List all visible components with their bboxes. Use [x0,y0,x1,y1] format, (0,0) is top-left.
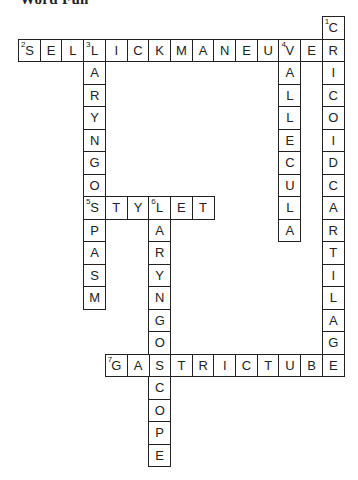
crossword-cell[interactable]: T [170,354,193,378]
cell-letter: T [112,200,120,215]
crossword-cell[interactable]: A [148,219,171,243]
cell-letter: A [90,65,99,80]
crossword-cell[interactable]: O [148,331,171,355]
crossword-cell[interactable]: A [83,241,106,265]
crossword-cell[interactable]: M [83,286,106,310]
crossword-cell[interactable]: R [322,219,345,243]
crossword-cell[interactable]: O [83,174,106,198]
crossword-cell[interactable]: O [322,106,345,130]
crossword-cell[interactable]: E [235,39,258,63]
clue-number: 3 [86,40,90,49]
cell-letter: T [264,358,272,373]
crossword-cell[interactable]: E [40,39,63,63]
crossword-cell[interactable]: A [83,61,106,85]
crossword-cell[interactable]: A [192,39,215,63]
crossword-cell[interactable]: C [127,39,150,63]
crossword-cell[interactable]: L [61,39,84,63]
crossword-cell[interactable]: C [235,354,258,378]
cell-letter: C [329,20,338,35]
crossword-cell[interactable]: I [213,354,236,378]
crossword-cell[interactable]: L [278,84,301,108]
crossword-cell[interactable]: R [322,39,345,63]
crossword-cell[interactable]: R [148,241,171,265]
crossword-cell[interactable]: G [148,309,171,333]
cell-letter: B [307,358,316,373]
crossword-cell[interactable]: T [257,354,280,378]
crossword-cell[interactable]: U [278,354,301,378]
crossword-cell[interactable]: Y [148,264,171,288]
cell-letter: E [155,448,164,463]
crossword-cell[interactable]: K [148,39,171,63]
cell-letter: I [331,65,335,80]
cell-letter: P [90,223,99,238]
cell-letter: G [111,358,121,373]
clue-number: 4 [281,40,285,49]
cell-letter: U [263,43,272,58]
crossword-cell[interactable]: I [322,61,345,85]
crossword-cell[interactable]: T [105,196,128,220]
crossword-cell[interactable]: U [257,39,280,63]
crossword-cell[interactable]: R [83,84,106,108]
clue-number: 6 [151,197,155,206]
crossword-cell[interactable]: 4V [278,39,301,63]
crossword-cell[interactable]: O [148,399,171,423]
crossword-cell[interactable]: A [278,61,301,85]
cell-letter: L [286,110,293,125]
cell-letter: G [90,155,100,170]
crossword-cell[interactable]: B [300,354,323,378]
crossword-cell[interactable]: A [322,309,345,333]
crossword-cell[interactable]: M [170,39,193,63]
crossword-cell[interactable]: Y [127,196,150,220]
cell-letter: G [155,313,165,328]
crossword-cell[interactable]: S [148,354,171,378]
cell-letter: I [223,358,227,373]
crossword-cell[interactable]: P [148,421,171,445]
cell-letter: R [329,43,338,58]
cell-letter: N [90,133,99,148]
crossword-cell[interactable]: 7G [105,354,128,378]
crossword-cell[interactable]: G [322,331,345,355]
crossword-cell[interactable]: A [322,196,345,220]
crossword-cell[interactable]: I [322,264,345,288]
crossword-cell[interactable]: A [127,354,150,378]
crossword-cell[interactable]: L [278,106,301,130]
cell-letter: E [286,133,295,148]
crossword-cell[interactable]: 5S [83,196,106,220]
crossword-cell[interactable]: 3L [83,39,106,63]
crossword-cell[interactable]: E [300,39,323,63]
crossword-cell[interactable]: A [278,219,301,243]
crossword-cell[interactable]: S [83,264,106,288]
crossword-cell[interactable]: N [213,39,236,63]
crossword-cell[interactable]: I [322,129,345,153]
crossword-cell[interactable]: L [322,286,345,310]
crossword-cell[interactable]: T [192,196,215,220]
crossword-cell[interactable]: U [278,174,301,198]
crossword-cell[interactable]: I [105,39,128,63]
cell-letter: T [177,358,185,373]
cell-letter: A [134,358,143,373]
cell-letter: C [242,358,251,373]
crossword-cell[interactable]: E [278,129,301,153]
crossword-cell[interactable]: C [278,151,301,175]
cell-letter: A [286,65,295,80]
crossword-cell[interactable]: E [322,354,345,378]
cell-letter: L [156,200,163,215]
crossword-cell[interactable]: N [148,286,171,310]
crossword-cell[interactable]: 2S [18,39,41,63]
clue-number: 5 [86,197,90,206]
crossword-cell[interactable]: N [83,129,106,153]
crossword-cell[interactable]: C [148,376,171,400]
crossword-cell[interactable]: T [322,241,345,265]
crossword-cell[interactable]: G [83,151,106,175]
crossword-cell[interactable]: D [322,151,345,175]
crossword-cell[interactable]: 6L [148,196,171,220]
crossword-cell[interactable]: Y [83,106,106,130]
crossword-cell[interactable]: P [83,219,106,243]
crossword-cell[interactable]: C [322,84,345,108]
crossword-cell[interactable]: L [278,196,301,220]
crossword-cell[interactable]: E [170,196,193,220]
crossword-cell[interactable]: 1C [322,16,345,40]
crossword-cell[interactable]: C [322,174,345,198]
crossword-cell[interactable]: R [192,354,215,378]
crossword-cell[interactable]: E [148,444,171,468]
